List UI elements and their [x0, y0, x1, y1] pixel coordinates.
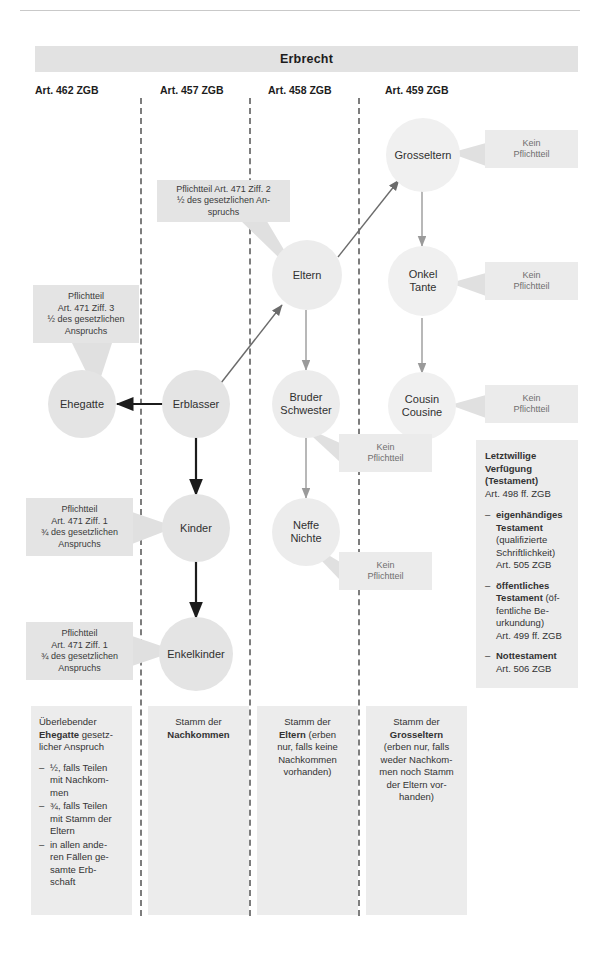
- panel-item-eigenhaendiges: eigenhändiges Testament (qualifizierte S…: [485, 509, 569, 572]
- panel-item-3-text1: Art. 506 ZGB: [496, 663, 551, 674]
- legend-col1-item-3-l4: schaft: [50, 876, 75, 887]
- panel-item-list: eigenhändiges Testament (qualifizierte S…: [485, 509, 569, 675]
- panel-item-nottestament: Nottestament Art. 506 ZGB: [485, 650, 569, 675]
- node-eltern[interactable]: Eltern: [272, 240, 342, 310]
- node-kinder-label: Kinder: [180, 522, 212, 535]
- node-onkel-tante[interactable]: Onkel Tante: [388, 246, 458, 316]
- kein-pflichtteil-line1-a: Kein: [513, 138, 549, 150]
- legend-col1-lead-1: Überlebender: [39, 716, 97, 727]
- node-cousin-cousine[interactable]: Cousin Cousine: [388, 372, 456, 440]
- diagram-title-bar: Erbrecht: [35, 46, 578, 72]
- panel-item-1-bold1: eigenhändiges: [496, 509, 563, 520]
- kein-pflichtteil-line2-d: Pflichtteil: [367, 453, 403, 465]
- legend-col1-item-1-l2: mit Nachkom-: [50, 774, 109, 785]
- legend-col1-item-2-l3: Eltern: [50, 825, 75, 836]
- panel-item-2-bold2: Testament: [496, 592, 543, 603]
- legend-col1-lead: Überlebender Ehegatte gesetz- licher Ans…: [39, 716, 124, 754]
- legend-col3-rest-3: Nachkommen: [278, 754, 337, 765]
- column-header-art-457: Art. 457 ZGB: [160, 84, 224, 96]
- callout-pflichtteil-ehegatte: Pflichtteil Art. 471 Ziff. 3 ½ des geset…: [33, 285, 139, 343]
- node-bruder-label: Bruder: [280, 391, 331, 404]
- node-enkelkinder-label: Enkelkinder: [167, 648, 224, 661]
- legend-col4-rest-4: der Eltern vor-: [386, 779, 446, 790]
- node-erblasser[interactable]: Erblasser: [162, 370, 230, 438]
- node-ehegatte[interactable]: Ehegatte: [48, 370, 116, 438]
- node-eltern-label: Eltern: [293, 269, 322, 282]
- callout-eltern-line3: spruchs: [176, 207, 270, 219]
- panel-subtitle: Art. 498 ff. ZGB: [485, 488, 569, 501]
- legend-col3-rest-4: vorhanden): [283, 766, 331, 777]
- callout-kein-pflichtteil-cousin-cousine: Kein Pflichtteil: [485, 385, 578, 423]
- callout-kein-pflichtteil-neffe-nichte: Kein Pflichtteil: [339, 552, 432, 590]
- legend-col1-lead-2: gesetz-: [79, 729, 113, 740]
- node-bruder-schwester[interactable]: Bruder Schwester: [272, 370, 340, 438]
- kein-pflichtteil-line1-c: Kein: [513, 393, 549, 405]
- legend-col1-item-2-l2: mit Stamm der: [50, 813, 112, 824]
- legend-col4-body: (erben nur, falls weder Nachkom- men noc…: [374, 741, 459, 804]
- legend-col4-bold: Grosseltern: [374, 729, 459, 742]
- node-grosseltern-label: Grosseltern: [395, 149, 452, 162]
- legend-column-ehegatte: Überlebender Ehegatte gesetz- licher Ans…: [31, 706, 132, 915]
- panel-item-1-text2: Schriftlichkeit): [496, 547, 555, 558]
- legend-col1-item-3-l3: samte Erb-: [50, 864, 96, 875]
- callout-enkel-line2: Art. 471 Ziff. 1: [41, 640, 118, 652]
- panel-title-line3: (Testament): [485, 475, 569, 488]
- callout-eltern-line2: ½ des gesetzlichen An-: [176, 195, 270, 207]
- legend-col2-bold: Nachkommen: [156, 729, 241, 742]
- callout-kein-pflichtteil-bruder-schwester: Kein Pflichtteil: [339, 434, 432, 472]
- panel-title-line1: Letztwillige: [485, 450, 569, 463]
- callout-kinder-line1: Pflichtteil: [41, 504, 118, 516]
- panel-title-line2: Verfügung: [485, 463, 569, 476]
- legend-col1-item-3-l2: ren Fällen ge-: [50, 851, 109, 862]
- legend-col1-list: ½, falls Teilen mit Nachkom- men ¾, fall…: [39, 762, 124, 889]
- node-grosseltern[interactable]: Grosseltern: [386, 118, 460, 192]
- column-header-art-459: Art. 459 ZGB: [385, 84, 449, 96]
- callout-enkel-line4: Anspruchs: [41, 663, 118, 675]
- legend-column-eltern: Stamm der Eltern (erben nur, falls keine…: [257, 706, 358, 915]
- column-divider-3: [358, 98, 360, 916]
- kein-pflichtteil-line1-b: Kein: [513, 270, 549, 282]
- kein-pflichtteil-line2-b: Pflichtteil: [513, 281, 549, 293]
- legend-col1-item-1: ½, falls Teilen mit Nachkom- men: [39, 762, 124, 800]
- kein-pflichtteil-line1-e: Kein: [367, 560, 403, 572]
- callout-enkel-line1: Pflichtteil: [41, 628, 118, 640]
- panel-letztwillige-verfuegung: Letztwillige Verfügung (Testament) Art. …: [476, 440, 578, 688]
- callout-ehegatte-line1: Pflichtteil: [47, 291, 124, 303]
- legend-col1-lead-bold: Ehegatte: [39, 729, 79, 740]
- page-title: Erbrecht: [280, 52, 333, 66]
- panel-item-2-text0: (öf-: [543, 592, 560, 603]
- legend-column-nachkommen: Stamm der Nachkommen: [148, 706, 249, 915]
- node-enkelkinder[interactable]: Enkelkinder: [159, 617, 233, 691]
- node-cousine-label: Cousine: [402, 406, 442, 419]
- node-tante-label: Tante: [409, 281, 438, 294]
- column-divider-1: [140, 98, 142, 916]
- panel-item-oeffentliches: öffentliches Testament (öf- fentliche Be…: [485, 580, 569, 643]
- callout-pflichtteil-kinder: Pflichtteil Art. 471 Ziff. 1 ¾ des geset…: [26, 498, 133, 556]
- node-onkel-label: Onkel: [409, 268, 438, 281]
- callout-enkel-line3: ¾ des gesetzlichen: [41, 651, 118, 663]
- legend-col1-lead-3: licher Anspruch: [39, 741, 104, 752]
- erbrecht-diagram: Erbrecht Art. 462 ZGB Art. 457 ZGB Art. …: [0, 0, 599, 969]
- legend-column-grosseltern: Stamm der Grosseltern (erben nur, falls …: [366, 706, 467, 915]
- panel-item-1-text1: (qualifizierte: [496, 534, 547, 545]
- node-erblasser-label: Erblasser: [173, 398, 219, 411]
- node-ehegatte-label: Ehegatte: [60, 398, 104, 411]
- legend-col3-line1: Stamm der: [265, 716, 350, 729]
- node-kinder[interactable]: Kinder: [162, 494, 230, 562]
- node-neffe-nichte[interactable]: Neffe Nichte: [272, 498, 340, 566]
- legend-col1-item-2-l1: ¾, falls Teilen: [50, 800, 107, 811]
- node-neffe-label: Neffe: [290, 519, 321, 532]
- panel-item-3-bold1: Nottestament: [496, 650, 557, 661]
- legend-col1-item-2: ¾, falls Teilen mit Stamm der Eltern: [39, 800, 124, 838]
- callout-kinder-line2: Art. 471 Ziff. 1: [41, 516, 118, 528]
- callout-eltern-line1: Pflichtteil Art. 471 Ziff. 2: [176, 184, 270, 196]
- legend-col4-rest-5: handen): [399, 791, 434, 802]
- column-header-art-458: Art. 458 ZGB: [268, 84, 332, 96]
- legend-col4-line1: Stamm der: [374, 716, 459, 729]
- legend-col2-line1: Stamm der: [156, 716, 241, 729]
- legend-col4-rest-2: weder Nachkom-: [381, 754, 453, 765]
- top-divider: [20, 10, 580, 11]
- node-cousin-label: Cousin: [402, 393, 442, 406]
- kein-pflichtteil-line2-e: Pflichtteil: [367, 571, 403, 583]
- kein-pflichtteil-line1-d: Kein: [367, 442, 403, 454]
